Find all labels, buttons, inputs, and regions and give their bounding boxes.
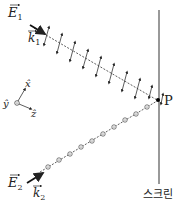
wave1-k-label: k1 — [28, 31, 40, 47]
wave2-field-label: E2 — [7, 175, 23, 192]
x-axis-label: x̂ — [25, 78, 31, 89]
screen-label: 스크린 — [143, 188, 173, 201]
wave2-direction-arrow — [27, 173, 43, 183]
wave1: E1 k1 — [7, 5, 163, 104]
y-axis-label: ŷ — [2, 98, 9, 109]
point-p-label: P — [164, 93, 173, 108]
z-axis-label: ẑ — [30, 108, 37, 119]
point-p-marker — [156, 98, 160, 102]
wave1-polarization-arrows — [44, 27, 163, 104]
wave2: E2 k2 — [7, 101, 157, 202]
wave2-k-label: k2 — [33, 186, 45, 202]
wave1-ray — [34, 28, 157, 100]
coordinate-axes: x̂ ŷ ẑ — [2, 78, 37, 119]
wave1-field-label: E1 — [7, 5, 23, 22]
interference-diagram: E1 k1 E2 k2 x̂ ŷ — [0, 0, 183, 203]
